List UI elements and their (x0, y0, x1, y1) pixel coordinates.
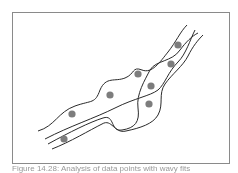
fit-curve-4 (52, 35, 203, 149)
data-point-8 (60, 135, 67, 142)
data-point-4 (147, 82, 154, 89)
data-point-1 (174, 41, 181, 48)
fit-curve-1 (38, 25, 187, 131)
data-point-2 (167, 60, 174, 67)
figure-frame (13, 13, 230, 164)
data-points (60, 41, 181, 142)
data-point-6 (145, 100, 152, 107)
diagram-figure (0, 0, 238, 173)
data-point-5 (106, 91, 113, 98)
data-point-7 (68, 110, 75, 117)
figure-caption: Figure 14.28: Analysis of data points wi… (12, 164, 232, 173)
data-point-3 (134, 70, 141, 77)
